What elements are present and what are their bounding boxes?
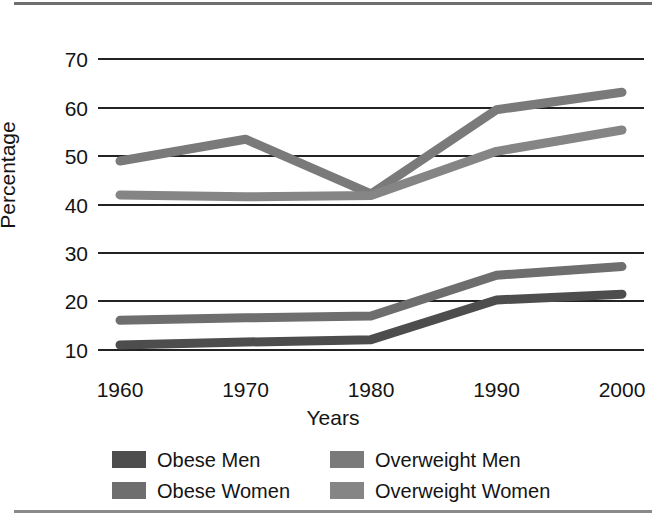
legend-label: Obese Men — [157, 450, 260, 470]
top-divider-rule — [14, 2, 652, 5]
y-axis-tick-label: 20 — [65, 291, 88, 312]
legend-swatch — [330, 482, 364, 499]
x-axis-tick-label: 2000 — [599, 378, 646, 402]
plot-area: 10203040506070 — [98, 40, 644, 374]
legend-swatch — [330, 451, 364, 468]
legend-label: Overweight Men — [375, 450, 521, 470]
legend-item: Overweight Women — [330, 481, 572, 501]
legend-item: Obese Men — [112, 450, 330, 470]
y-axis-tick-label: 10 — [65, 339, 88, 360]
bottom-divider-rule — [14, 510, 652, 513]
y-axis-title: Percentage — [0, 121, 20, 228]
legend-swatch — [112, 482, 146, 499]
x-axis-tick-labels: 19601970198019902000 — [98, 378, 644, 406]
x-axis-title: Years — [0, 406, 666, 430]
y-axis-tick-label: 50 — [65, 146, 88, 167]
x-axis-tick-label: 1970 — [222, 378, 269, 402]
x-axis-tick-label: 1980 — [348, 378, 395, 402]
x-axis-tick-label: 1990 — [473, 378, 520, 402]
series-line — [120, 130, 622, 197]
y-axis-tick-label: 70 — [65, 49, 88, 70]
series-lines — [98, 40, 644, 374]
y-axis-tick-label: 30 — [65, 242, 88, 263]
legend-label: Obese Women — [157, 481, 290, 501]
legend-item: Overweight Men — [330, 450, 572, 470]
y-axis-tick-label: 60 — [65, 97, 88, 118]
x-axis-tick-label: 1960 — [97, 378, 144, 402]
legend-label: Overweight Women — [375, 481, 550, 501]
y-axis-tick-label: 40 — [65, 194, 88, 215]
chart-figure: Percentage 10203040506070 19601970198019… — [0, 0, 666, 521]
chart-legend: Obese MenOverweight MenObese WomenOverwe… — [112, 444, 572, 506]
legend-swatch — [112, 451, 146, 468]
legend-item: Obese Women — [112, 481, 330, 501]
